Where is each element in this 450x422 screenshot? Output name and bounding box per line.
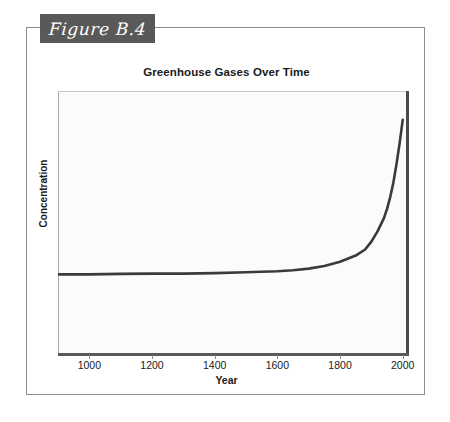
figure-number-banner: Figure B.4 — [40, 14, 155, 43]
x-tick-mark — [403, 355, 404, 359]
x-tick-label: 1000 — [66, 359, 112, 371]
x-tick-mark — [89, 355, 90, 359]
x-tick-label: 1800 — [317, 359, 363, 371]
x-tick-mark — [277, 355, 278, 359]
x-tick-label: 1200 — [129, 359, 175, 371]
x-tick-mark — [215, 355, 216, 359]
y-axis-label: Concentration — [38, 134, 49, 254]
x-tick-label: 1600 — [254, 359, 300, 371]
line-chart-svg — [58, 91, 409, 353]
chart-container: Greenhouse Gases Over Time 1000120014001… — [27, 28, 426, 396]
figure-frame: Greenhouse Gases Over Time 1000120014001… — [26, 27, 425, 395]
x-axis-label: Year — [27, 374, 426, 386]
data-series-line — [58, 120, 403, 275]
chart-title: Greenhouse Gases Over Time — [27, 66, 426, 78]
x-tick-mark — [340, 355, 341, 359]
x-axis-line — [58, 353, 409, 356]
x-tick-mark — [152, 355, 153, 359]
x-tick-label: 1400 — [192, 359, 238, 371]
x-tick-label: 2000 — [380, 359, 426, 371]
figure-number-label: Figure B.4 — [48, 19, 147, 39]
